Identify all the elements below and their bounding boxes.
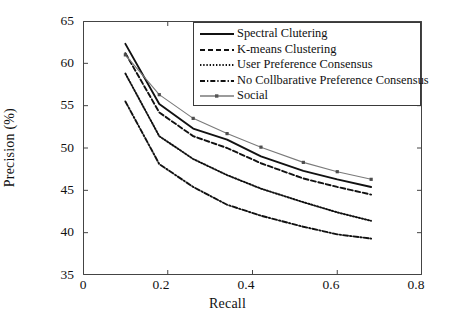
- series-marker: [336, 170, 339, 173]
- x-tick-02: 0.2: [141, 277, 181, 293]
- legend-item-no-collaborative: No Collbarative Preference Consensus: [198, 73, 416, 89]
- series-marker: [158, 93, 161, 96]
- y-axis-label: Precision (%): [2, 108, 22, 187]
- legend-sample-social: [198, 89, 236, 102]
- x-tick-06: 0.6: [311, 277, 351, 293]
- legend-sample-dashed: [198, 43, 236, 56]
- x-tick-0: 0: [63, 277, 103, 293]
- legend-label: K-means Clustering: [236, 43, 336, 56]
- y-tick-50: 50: [44, 140, 74, 156]
- legend-item-user-preference: User Preference Consensus: [198, 57, 416, 73]
- x-axis-label: Recall: [0, 296, 455, 312]
- legend-label: No Collbarative Preference Consensus: [236, 74, 429, 87]
- series-line-3: [125, 101, 371, 238]
- legend-label: User Preference Consensus: [236, 58, 373, 71]
- legend-label: Social: [236, 89, 268, 102]
- y-tick-65: 65: [44, 13, 74, 29]
- y-tick-55: 55: [44, 97, 74, 113]
- legend-sample-dashdot: [198, 74, 236, 87]
- x-tick-08: 0.8: [396, 277, 436, 293]
- y-tick-45: 45: [44, 182, 74, 198]
- legend-label: Spectral Clutering: [236, 27, 328, 40]
- series-marker: [124, 53, 127, 56]
- legend-sample-dotted: [198, 58, 236, 71]
- legend-item-kmeans: K-means Clustering: [198, 42, 416, 58]
- legend-item-social: Social: [198, 88, 416, 104]
- legend-box: Spectral Clutering K-means Clustering Us…: [193, 22, 421, 106]
- y-tick-60: 60: [44, 55, 74, 71]
- series-marker: [192, 117, 195, 120]
- series-marker: [225, 132, 228, 135]
- legend-sample-solid: [198, 27, 236, 40]
- y-tick-40: 40: [44, 224, 74, 240]
- series-marker: [370, 178, 373, 181]
- chart-figure: Precision (%) Recall 65 60 55 50 45 40 3…: [0, 0, 455, 329]
- series-marker: [302, 161, 305, 164]
- x-tick-04: 0.4: [226, 277, 266, 293]
- legend-item-spectral: Spectral Clutering: [198, 26, 416, 42]
- series-marker: [259, 146, 262, 149]
